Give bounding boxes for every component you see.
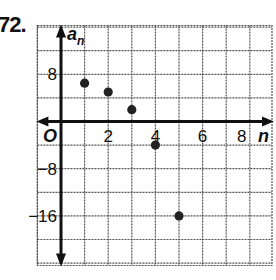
tick-labels: 24688−8−16Onan <box>28 24 269 226</box>
x-tick-label: 8 <box>237 127 246 146</box>
x-tick-label: 2 <box>103 127 112 146</box>
origin-label: O <box>43 126 57 146</box>
x-axis-label: n <box>258 126 269 146</box>
data-point <box>104 87 113 96</box>
x-tick-label: 6 <box>198 127 207 146</box>
y-axis-label: an <box>67 24 84 48</box>
y-tick-label: 8 <box>48 65 57 84</box>
data-point <box>80 79 89 88</box>
data-point <box>151 141 160 150</box>
y-tick-label: −16 <box>28 207 57 226</box>
data-point <box>174 211 183 220</box>
data-point <box>127 105 136 114</box>
y-axis-arrow-up-icon <box>56 25 66 38</box>
y-tick-label: −8 <box>38 160 57 179</box>
sequence-scatter-chart: 24688−8−16Onan <box>0 0 276 280</box>
y-axis-arrow-down-icon <box>56 254 66 267</box>
